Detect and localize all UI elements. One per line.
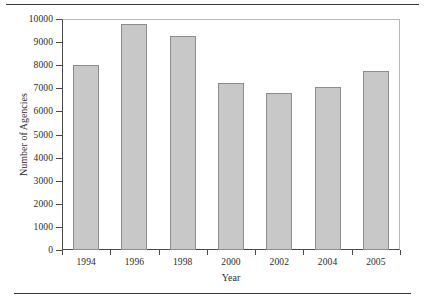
y-axis-tick-label: 8000 — [34, 60, 53, 70]
y-axis-title: Number of Agencies — [16, 19, 30, 250]
y-axis-tick-label: 10000 — [29, 14, 53, 24]
x-axis-tick — [352, 250, 353, 255]
bar-group: 2000 — [207, 19, 255, 250]
x-axis-tick — [400, 250, 401, 255]
bar — [266, 93, 292, 250]
y-axis-tick — [56, 158, 62, 159]
chart-figure: Number of Agencies 199419961998200020022… — [0, 0, 425, 303]
y-axis-tick-label: 3000 — [34, 176, 53, 186]
y-axis-tick — [56, 65, 62, 66]
x-axis-tick-label: 1998 — [173, 257, 192, 267]
y-axis-tick — [56, 42, 62, 43]
plot-area: 1994199619982000200220042005 01000200030… — [62, 19, 400, 250]
y-axis-tick-label: 9000 — [34, 37, 53, 47]
x-axis-tick — [110, 250, 111, 255]
bottom-rule — [14, 293, 411, 294]
y-axis-tick — [56, 88, 62, 89]
y-axis-title-text: Number of Agencies — [18, 93, 29, 176]
x-axis-tick-label: 2005 — [366, 257, 385, 267]
x-axis-title: Year — [62, 272, 400, 283]
y-axis-tick — [56, 227, 62, 228]
bar-group: 2004 — [303, 19, 351, 250]
y-axis-tick — [56, 19, 62, 20]
x-axis-tick-label: 2002 — [270, 257, 289, 267]
x-axis-tick — [159, 250, 160, 255]
y-axis-tick — [56, 204, 62, 205]
bar-group: 1994 — [62, 19, 110, 250]
x-axis-tick-label: 1996 — [125, 257, 144, 267]
bar — [170, 36, 196, 250]
x-axis-tick-label: 1994 — [76, 257, 95, 267]
y-axis-tick — [56, 111, 62, 112]
bar-group: 1996 — [110, 19, 158, 250]
y-axis-tick-label: 5000 — [34, 130, 53, 140]
y-axis-tick — [56, 135, 62, 136]
top-rule — [6, 4, 419, 5]
y-axis-tick-label: 0 — [48, 245, 53, 255]
bar — [218, 83, 244, 250]
x-axis-tick-label: 2000 — [221, 257, 240, 267]
y-axis-tick-label: 2000 — [34, 199, 53, 209]
bars-layer: 1994199619982000200220042005 — [62, 19, 400, 250]
bar — [73, 65, 99, 250]
bar — [363, 71, 389, 250]
y-axis-tick-label: 1000 — [34, 222, 53, 232]
bar — [121, 24, 147, 250]
bar-group: 2002 — [255, 19, 303, 250]
y-axis-tick-label: 7000 — [34, 83, 53, 93]
x-axis-tick — [255, 250, 256, 255]
bar — [315, 87, 341, 250]
y-axis-tick-label: 4000 — [34, 153, 53, 163]
x-axis-tick-label: 2004 — [318, 257, 337, 267]
x-axis-tick — [62, 250, 63, 255]
bar-group: 2005 — [352, 19, 400, 250]
y-axis-tick-label: 6000 — [34, 106, 53, 116]
x-axis-tick — [207, 250, 208, 255]
x-axis-tick — [303, 250, 304, 255]
x-axis-title-text: Year — [222, 272, 240, 283]
y-axis-tick — [56, 181, 62, 182]
bar-group: 1998 — [159, 19, 207, 250]
